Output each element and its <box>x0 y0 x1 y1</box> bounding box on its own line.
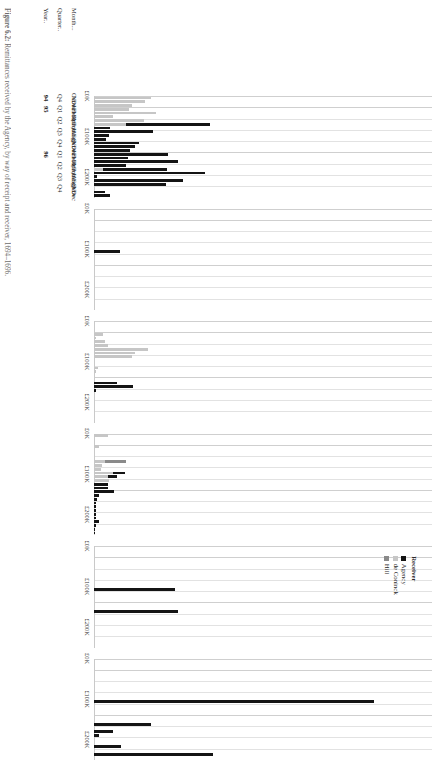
bar-segment <box>94 333 103 336</box>
bar <box>94 753 213 756</box>
legend-label: Agency <box>399 564 408 585</box>
bar-segment <box>94 434 108 437</box>
quarter-gridline <box>94 704 432 705</box>
bar-segment <box>94 730 113 733</box>
value-tick-label: £200K <box>84 618 91 635</box>
bar-segment <box>94 153 168 156</box>
bar <box>94 127 110 130</box>
bar <box>94 172 205 175</box>
bar <box>94 460 126 463</box>
legend-item[interactable]: de Coninck <box>391 556 399 595</box>
bar <box>94 104 132 107</box>
bar-segment <box>94 723 151 726</box>
bar <box>94 498 97 501</box>
bar <box>94 175 97 178</box>
bar-segment <box>94 164 126 167</box>
quarter-gridline <box>94 625 432 626</box>
bar <box>94 352 135 355</box>
bar-segment <box>94 352 135 355</box>
quarter-gridline <box>94 164 432 165</box>
bar <box>94 179 183 182</box>
legend-item[interactable]: Hill <box>383 556 391 595</box>
value-tick-label: £100K <box>84 465 91 482</box>
bar <box>94 479 109 482</box>
quarter-gridline <box>94 501 432 502</box>
quarter-gridline <box>94 321 432 322</box>
month-row-header: Month... <box>71 8 78 31</box>
bar-segment <box>108 475 117 478</box>
bar <box>94 348 148 351</box>
bar <box>94 588 175 591</box>
quarter-gridline <box>94 220 432 221</box>
bar <box>94 168 167 171</box>
bar-segment <box>94 149 131 152</box>
quarter-gridline <box>94 479 432 480</box>
quarter-gridline <box>94 557 432 558</box>
plot-area: £0K£100K£200K£0K£100K£200K£0K£100K£200K£… <box>34 96 432 760</box>
bar-segment <box>94 588 175 591</box>
bar <box>94 610 178 613</box>
value-tick-label: £0K <box>84 653 91 664</box>
bar-segment <box>94 134 109 137</box>
quarter-gridline <box>94 119 432 120</box>
bar-segment <box>94 112 156 115</box>
bar <box>94 142 139 145</box>
bar-segment <box>94 183 166 186</box>
bar <box>94 160 178 163</box>
bar <box>94 97 151 100</box>
bar <box>94 100 145 103</box>
bar-segment <box>94 119 144 122</box>
quarter-gridline <box>94 670 432 671</box>
quarter-tick-label: Q4 <box>57 184 64 192</box>
bar <box>94 153 168 156</box>
bar <box>94 367 98 370</box>
bar-segment <box>94 475 108 478</box>
quarter-gridline <box>94 524 432 525</box>
bar-segment <box>126 123 210 126</box>
bar-segment <box>94 479 109 482</box>
legend-swatch-icon <box>384 556 389 561</box>
year-tick-label: 95 <box>43 106 50 113</box>
value-tick-label: £0K <box>84 315 91 326</box>
bar <box>94 123 210 126</box>
value-tick-label: £200K <box>84 168 91 185</box>
facet-panel <box>94 659 432 761</box>
quarter-gridline <box>94 366 432 367</box>
bar-segment <box>94 445 99 448</box>
quarter-gridline <box>94 692 432 693</box>
bar <box>94 191 105 194</box>
quarter-gridline <box>94 186 432 187</box>
bar <box>94 389 96 392</box>
value-tick-label: £200K <box>84 731 91 748</box>
bar-segment <box>105 460 127 463</box>
bar-segment <box>94 355 132 358</box>
bar-segment <box>94 460 105 463</box>
bar-segment <box>94 100 145 103</box>
quarter-tick-label: Q3 <box>57 128 64 136</box>
facet-panel <box>94 546 432 648</box>
bar-segment <box>113 472 125 475</box>
panel-baseline <box>94 209 95 311</box>
quarter-tick-label: Q4 <box>57 94 64 102</box>
value-tick-label: £100K <box>84 128 91 145</box>
quarter-gridline <box>94 141 432 142</box>
bar <box>94 502 96 505</box>
quarter-row-header: Quarter.. <box>57 8 64 31</box>
bar <box>94 524 96 527</box>
bar <box>94 532 95 535</box>
caption-text: Remittances received by the Agency, by w… <box>3 43 11 276</box>
value-tick-label: £0K <box>84 540 91 551</box>
bar-segment <box>94 494 99 497</box>
legend-item[interactable]: Agency <box>400 556 408 595</box>
bar <box>94 333 103 336</box>
bar-segment <box>94 528 95 531</box>
bar <box>94 340 105 343</box>
bar <box>94 475 117 478</box>
bar-segment <box>94 385 133 388</box>
bar-segment <box>94 142 139 145</box>
quarter-gridline <box>94 231 432 232</box>
bar-segment <box>94 191 105 194</box>
bar-segment <box>94 337 96 340</box>
quarter-gridline <box>94 749 432 750</box>
bar-segment <box>94 123 126 126</box>
